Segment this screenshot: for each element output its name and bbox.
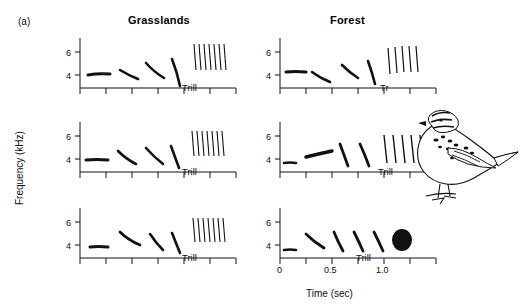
panel-tag: (a) (18, 16, 30, 27)
svg-text:1.0: 1.0 (376, 265, 389, 275)
panel-forest-row1: 4 6 Tr (262, 34, 437, 96)
spectrogram-grasslands-row3: 4 6 (62, 204, 237, 274)
trill-label-forest-row3: Trill (356, 252, 371, 263)
spectrogram-grasslands-row1: 4 6 (62, 34, 237, 96)
svg-text:6: 6 (66, 132, 71, 142)
panel-grasslands-row1: 4 6 Trill (62, 34, 237, 96)
svg-text:4: 4 (266, 241, 271, 251)
figure-root: (a) Grasslands Forest Frequency (kHz) Ti… (0, 0, 520, 304)
svg-text:6: 6 (66, 218, 71, 228)
svg-text:4: 4 (266, 155, 271, 165)
trill-label-grasslands-row2: Trill (182, 166, 197, 177)
trill-label-forest-row1: Tr (380, 82, 389, 93)
svg-text:6: 6 (266, 48, 271, 58)
sparrow-illustration (396, 96, 520, 218)
svg-text:6: 6 (266, 132, 271, 142)
spectrogram-grasslands-row2: 4 6 (62, 118, 237, 180)
column-title-forest: Forest (330, 14, 365, 26)
svg-text:4: 4 (66, 71, 71, 81)
column-title-grasslands: Grasslands (128, 14, 190, 26)
svg-text:6: 6 (66, 48, 71, 58)
svg-text:6: 6 (266, 218, 271, 228)
svg-text:0.5: 0.5 (324, 265, 337, 275)
svg-text:0: 0 (277, 265, 282, 275)
panel-grasslands-row3: 4 6 Trill (62, 204, 237, 274)
svg-text:4: 4 (66, 241, 71, 251)
trill-label-forest-row2: Trill (378, 166, 393, 177)
y-axis-label: Frequency (kHz) (14, 131, 25, 205)
spectrogram-forest-row1: 4 6 (262, 34, 437, 96)
svg-text:4: 4 (266, 71, 271, 81)
panel-grasslands-row2: 4 6 Trill (62, 118, 237, 180)
svg-text:4: 4 (66, 155, 71, 165)
trill-label-grasslands-row1: Trill (182, 82, 197, 93)
trill-label-grasslands-row3: Trill (182, 252, 197, 263)
x-axis-label: Time (sec) (306, 288, 353, 299)
